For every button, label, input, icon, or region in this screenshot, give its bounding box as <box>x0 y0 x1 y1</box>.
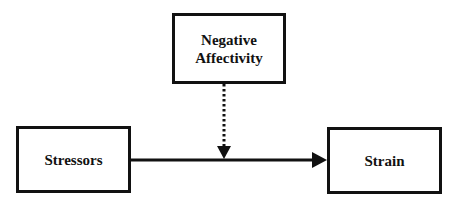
negative-affectivity-label-line2: Affectivity <box>195 49 262 67</box>
strain-label: Strain <box>364 152 404 170</box>
stressors-node: Stressors <box>16 126 131 193</box>
moderator-arrowhead-icon <box>217 146 231 159</box>
stressors-label: Stressors <box>44 151 102 169</box>
strain-node: Strain <box>327 127 442 194</box>
negative-affectivity-label-line1: Negative <box>195 31 262 49</box>
strain-arrowhead-icon <box>312 152 327 168</box>
negative-affectivity-node: Negative Affectivity <box>172 13 286 84</box>
